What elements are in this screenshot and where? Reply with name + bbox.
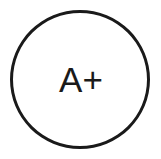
grade-badge-circle: A+ (10, 10, 150, 149)
grade-label: A+ (59, 62, 103, 97)
